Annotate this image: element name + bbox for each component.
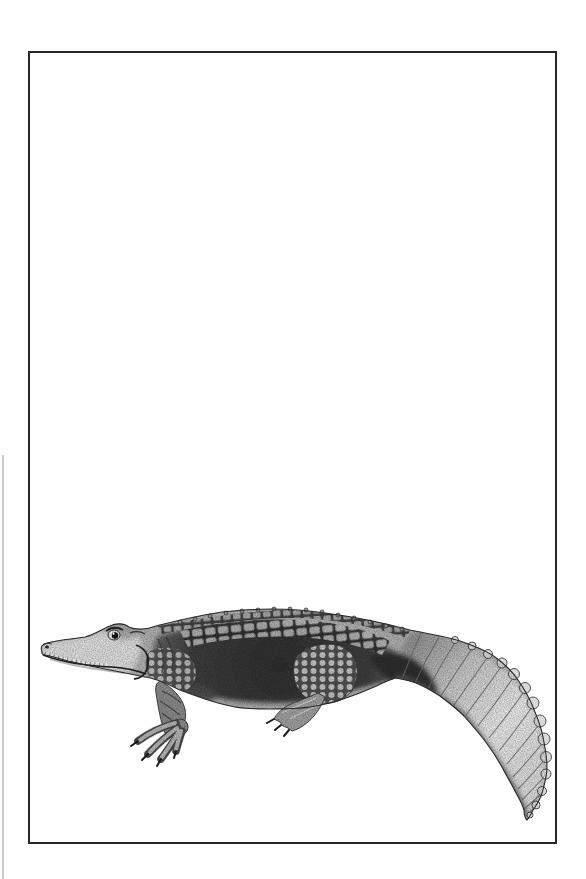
page-edge-shadow <box>2 455 4 879</box>
book-page <box>0 0 586 879</box>
alligator-illustration <box>30 595 560 830</box>
grain-texture <box>30 595 560 830</box>
